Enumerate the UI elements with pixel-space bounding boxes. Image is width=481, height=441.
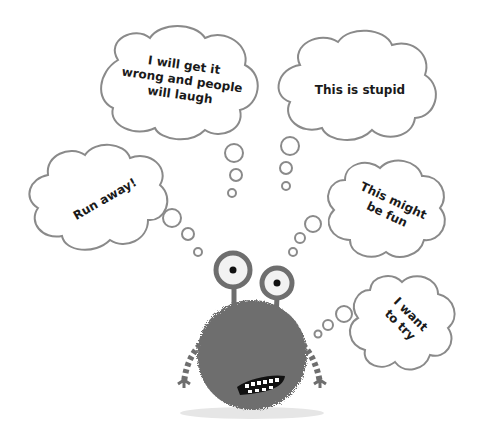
thought-bubbles-fun — [289, 216, 321, 256]
thought-bubbles-wrong — [225, 144, 243, 197]
thought-bubbles-try — [315, 306, 353, 338]
thought-text-stupid: This is stupid — [300, 83, 420, 98]
monster — [178, 253, 326, 419]
thought-bubbles-stupid — [280, 137, 299, 190]
thought-bubbles-run — [163, 209, 202, 256]
